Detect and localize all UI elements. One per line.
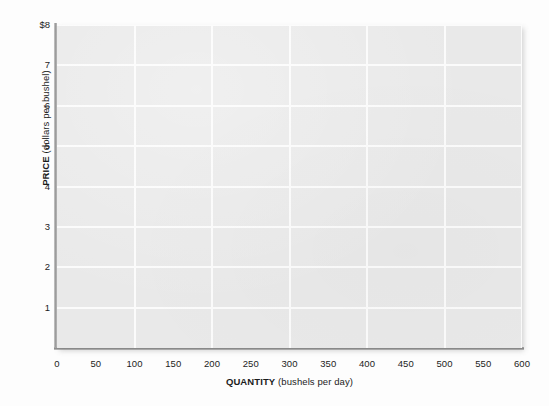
gridline-vertical bbox=[211, 25, 213, 348]
plot-area bbox=[57, 25, 522, 348]
y-axis-tick-label: 2 bbox=[4, 262, 50, 272]
y-axis-tick-label: 6 bbox=[4, 101, 50, 111]
gridline-vertical bbox=[134, 25, 136, 348]
x-axis-tick-label: 150 bbox=[153, 358, 193, 370]
price-quantity-chart: PRICE (dollars per bushel) 1234567$8 050… bbox=[0, 0, 549, 406]
y-axis-tick-label: 5 bbox=[4, 141, 50, 151]
x-axis-tick-label: 350 bbox=[308, 358, 348, 370]
x-axis-tick-labels: 050100150200250300350400450500550600 bbox=[0, 358, 549, 372]
x-axis-tick-label: 450 bbox=[386, 358, 426, 370]
x-axis-tick-label: 500 bbox=[425, 358, 465, 370]
x-axis-tick-label: 550 bbox=[463, 358, 503, 370]
x-axis-title-bold: QUANTITY bbox=[226, 376, 275, 387]
x-axis-tick-label: 250 bbox=[231, 358, 271, 370]
y-axis-tick-label: 3 bbox=[4, 222, 50, 232]
gridline-vertical bbox=[366, 25, 368, 348]
x-axis-tick-label: 300 bbox=[270, 358, 310, 370]
x-axis-title: QUANTITY (bushels per day) bbox=[57, 376, 522, 387]
x-axis-tick-label: 200 bbox=[192, 358, 232, 370]
y-axis-tick-label: 1 bbox=[4, 303, 50, 313]
y-axis-tick-label: $8 bbox=[4, 20, 50, 30]
gridline-vertical bbox=[521, 25, 522, 348]
y-axis-tick-labels: 1234567$8 bbox=[0, 0, 50, 406]
x-axis-tick-label: 600 bbox=[502, 358, 542, 370]
x-axis-tick-label: 400 bbox=[347, 358, 387, 370]
x-axis-tick-label: 100 bbox=[115, 358, 155, 370]
gridline-vertical bbox=[289, 25, 291, 348]
y-axis-tick-label: 7 bbox=[4, 60, 50, 70]
y-axis-tick-label: 4 bbox=[4, 182, 50, 192]
x-axis-title-rest: (bushels per day) bbox=[278, 376, 353, 387]
gridline-vertical bbox=[444, 25, 446, 348]
x-axis-tick-label: 50 bbox=[76, 358, 116, 370]
x-axis-tick-label: 0 bbox=[37, 358, 77, 370]
